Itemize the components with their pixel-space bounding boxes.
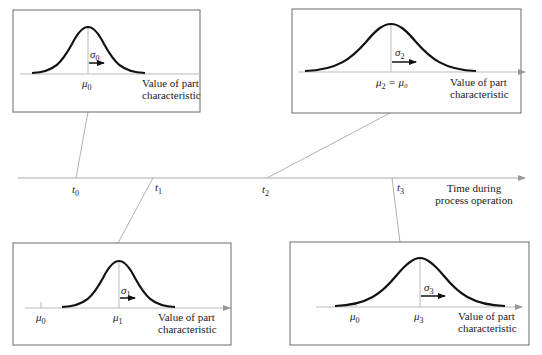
sigma-label: σ1 [121,284,130,301]
axis-label-line2: characteristic [458,322,517,334]
axis-label-line1: Value of part [450,76,509,88]
sigma-label: σ0 [90,48,99,65]
axis-label-line2: characteristic [450,88,509,100]
tick-label-t3: t3 [397,181,404,198]
tick-label-t0: t0 [72,183,79,200]
axis-label-line1: Value of part [142,77,201,89]
leader-t0 [76,112,88,178]
leader-t2 [267,113,390,178]
axis-label-line1: Value of part [458,310,517,322]
axis-label-line2: characteristic [142,89,201,101]
value-axis-label: Value of part characteristic [458,310,517,334]
tick-sub: 3 [400,187,404,196]
ref-mean-label: μ0 [350,310,360,327]
mu-equality: = μ₀ [386,76,408,88]
value-axis-label: Value of part characteristic [450,76,509,100]
value-axis-label: Value of part characteristic [158,311,217,335]
mu-sub: 0 [88,83,92,92]
tick-sub: 2 [265,189,269,198]
process-drift-diagram [0,0,542,355]
mean-label: μ3 [414,310,424,327]
mu-sub: 0 [356,316,360,325]
axis-label-line1: Value of part [158,311,217,323]
sigma-sub: 2 [400,52,404,61]
time-axis-label: Time during process operation [419,182,529,206]
tick-sub: 0 [75,189,79,198]
mean-label: μ1 [113,311,123,328]
sigma-sub: 1 [126,290,130,299]
mu-sub: 3 [420,316,424,325]
mean-label: μ0 [82,77,92,94]
value-axis-label: Value of part characteristic [142,77,201,101]
tick-sub: 1 [158,187,162,196]
tick-label-t1: t1 [155,181,162,198]
sigma-label: σ2 [395,46,404,63]
mean-label: μ2 = μ₀ [376,76,408,93]
mu-sub: 1 [119,317,123,326]
mu-sub: 0 [42,317,46,326]
axis-label-line2: characteristic [158,323,217,335]
sigma-label: σ3 [424,281,433,298]
time-axis-label-line2: process operation [419,194,529,206]
ref-mean-label: μ0 [36,311,46,328]
time-axis-label-line1: Time during [419,182,529,194]
leader-t1 [118,178,153,243]
tick-label-t2: t2 [262,183,269,200]
sigma-sub: 0 [95,54,99,63]
sigma-sub: 3 [429,287,433,296]
